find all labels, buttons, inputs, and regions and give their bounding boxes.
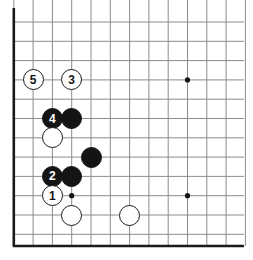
stone-white[interactable] [61, 205, 82, 226]
stone-black[interactable] [81, 147, 102, 168]
stone-white-1[interactable]: 1 [42, 185, 63, 206]
go-board-diagram: 53421 [0, 0, 253, 260]
star-point-side-lower [185, 193, 190, 198]
stone-move-number: 2 [49, 170, 56, 182]
stone-white-5[interactable]: 5 [23, 69, 44, 90]
stone-black-2[interactable]: 2 [42, 166, 63, 187]
stone-move-number: 4 [49, 113, 56, 125]
stone-move-number: 3 [68, 74, 75, 86]
star-point-side-upper [185, 77, 190, 82]
stone-black[interactable] [61, 166, 82, 187]
stone-white[interactable] [119, 205, 140, 226]
stone-move-number: 5 [30, 74, 37, 86]
stone-black-4[interactable]: 4 [42, 108, 63, 129]
star-point-corner [69, 193, 74, 198]
stone-move-number: 1 [49, 190, 56, 202]
